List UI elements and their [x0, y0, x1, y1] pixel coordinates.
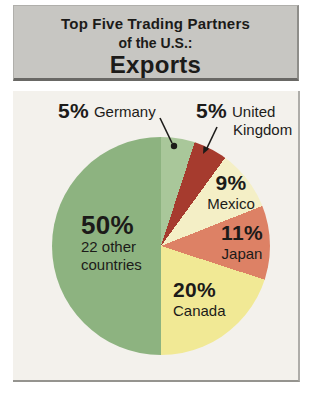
germany-name: Germany: [94, 103, 156, 120]
label-mexico: 9% Mexico: [195, 170, 267, 213]
united-kingdom-name-line2: Kingdom: [233, 121, 292, 138]
chart-title-line3: Exports: [14, 51, 297, 79]
pie-chart-panel: 5%Germany 5%United Kingdom 9% Mexico 11%…: [13, 91, 300, 382]
label-germany: 5%Germany: [58, 102, 156, 121]
japan-percent: 11%: [206, 220, 278, 245]
label-japan: 11% Japan: [206, 220, 278, 263]
others-percent: 50%: [81, 213, 142, 238]
canada-percent: 20%: [173, 277, 226, 302]
mexico-percent: 9%: [195, 170, 267, 195]
label-other-countries: 50% 22 other countries: [81, 213, 142, 274]
chart-title-box: Top Five Trading Partners of the U.S.: E…: [13, 5, 299, 81]
united-kingdom-percent: 5%: [196, 99, 227, 122]
others-name-line2: countries: [81, 256, 142, 273]
others-name-line1: 22 other: [81, 238, 136, 255]
mexico-name: Mexico: [207, 195, 255, 212]
chart-title-line1: Top Five Trading Partners: [14, 15, 297, 32]
label-canada: 20% Canada: [173, 277, 226, 320]
chart-title-line2: of the U.S.:: [14, 35, 297, 51]
united-kingdom-line1: 5%United: [196, 102, 292, 121]
germany-percent: 5%: [58, 99, 89, 122]
canada-name: Canada: [173, 302, 226, 319]
united-kingdom-name-line1: United: [232, 103, 275, 120]
japan-name: Japan: [222, 245, 263, 262]
label-united-kingdom: 5%United Kingdom: [196, 102, 292, 138]
